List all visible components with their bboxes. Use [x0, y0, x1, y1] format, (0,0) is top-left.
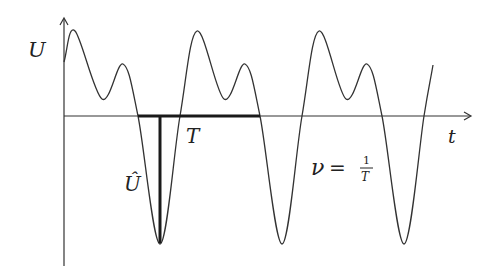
amplitude-label: Û: [124, 171, 142, 196]
x-axis-label: t: [448, 125, 456, 147]
equals-sign: =: [329, 156, 346, 180]
waveform-curve: [64, 30, 433, 244]
fraction-numerator: 1: [363, 154, 370, 167]
frequency-formula: ν = 1 T: [311, 154, 373, 184]
period-label: T: [186, 124, 201, 148]
y-axis-label: U: [28, 38, 47, 62]
fraction-denominator: T: [361, 170, 370, 184]
periodic-signal-diagram: U t T Û ν = 1 T: [0, 0, 495, 279]
frequency-symbol: ν: [311, 155, 324, 180]
